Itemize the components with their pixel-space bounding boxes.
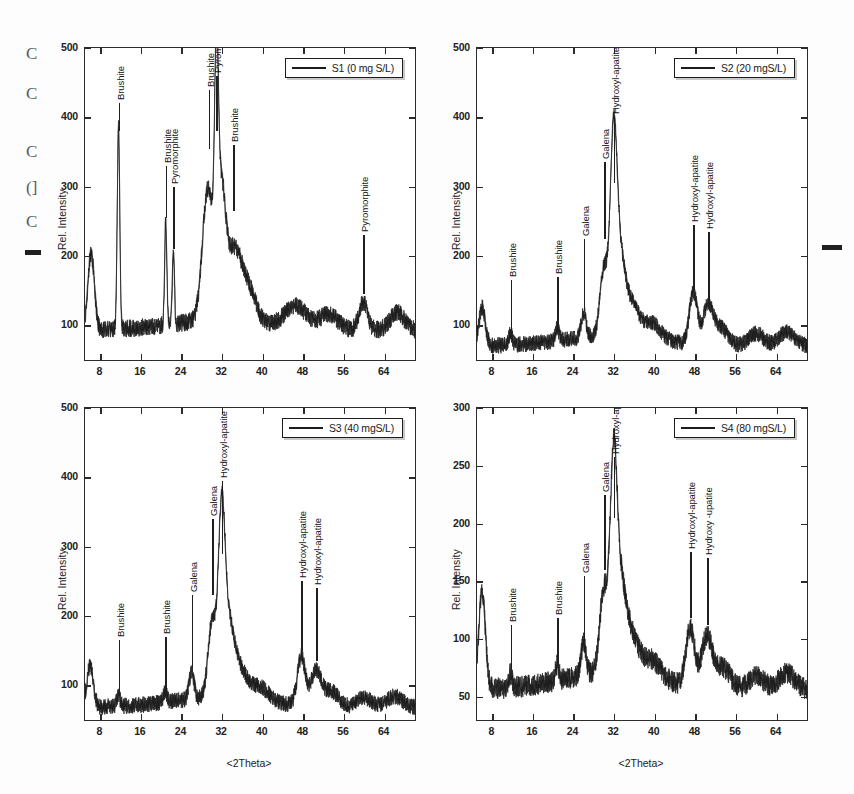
x-axis-tick <box>655 714 656 720</box>
x-tick-label: 16 <box>526 725 537 737</box>
peak-leader-line <box>511 625 513 670</box>
peak-label: Brushite <box>553 581 564 615</box>
y-axis-tick <box>477 639 483 640</box>
peak-leader-line <box>604 495 606 570</box>
x-axis-tick <box>533 408 534 414</box>
y-tick-label: 200 <box>440 517 470 529</box>
peak-label: Hydroxyl-apatite <box>610 407 621 454</box>
x-tick-label: 24 <box>567 725 578 737</box>
legend: S4 (80 mgS/L) <box>674 418 795 438</box>
x-axis-tick <box>695 408 696 414</box>
plot-area: BrushiteBrushiteGalenaGalenaHydroxyl-apa… <box>476 407 808 721</box>
x-axis-tick <box>655 408 656 414</box>
y-axis-tick <box>477 408 483 409</box>
y-axis-tick <box>801 581 807 582</box>
peak-leader-line <box>614 457 616 518</box>
x-axis-tick <box>492 408 493 414</box>
peak-leader-line <box>707 558 709 625</box>
x-tick-label: 48 <box>689 725 700 737</box>
x-tick-label: 64 <box>770 725 781 737</box>
legend-line-swatch <box>681 427 715 429</box>
x-axis-tick <box>736 408 737 414</box>
x-tick-label: 32 <box>607 725 618 737</box>
y-axis-tick <box>801 639 807 640</box>
peak-label: Hydroxy -upatite <box>703 488 714 556</box>
y-axis-tick <box>801 524 807 525</box>
y-tick-label: 50 <box>440 690 470 702</box>
y-axis-tick <box>477 524 483 525</box>
x-tick-label: 40 <box>648 725 659 737</box>
x-axis-tick <box>777 408 778 414</box>
panel-4: BrushiteBrushiteGalenaGalenaHydroxyl-apa… <box>0 0 854 794</box>
peak-leader-line <box>690 552 692 618</box>
y-tick-label: 300 <box>440 401 470 413</box>
peak-label: Galena <box>580 543 591 573</box>
peak-label: Hydroxyl-apatite <box>686 482 697 549</box>
y-axis-tick <box>801 466 807 467</box>
y-axis-tick <box>801 697 807 698</box>
x-axis-label: <2Theta> <box>619 757 664 769</box>
y-axis-tick <box>477 697 483 698</box>
xrd-figure: C C C (] C BrushiteBrushitePyromorphiteB… <box>0 0 854 794</box>
x-axis-tick <box>614 714 615 720</box>
peak-leader-line <box>584 576 586 645</box>
xrd-trace <box>477 408 807 720</box>
y-axis-tick <box>477 466 483 467</box>
peak-label: Brushite <box>507 588 518 622</box>
legend-label: S4 (80 mgS/L) <box>721 422 786 434</box>
y-axis-label: Rel. Intensity <box>450 549 462 610</box>
peak-label: Galena <box>600 462 611 492</box>
x-tick-label: 8 <box>488 725 494 737</box>
x-axis-tick <box>695 714 696 720</box>
x-axis-tick <box>777 714 778 720</box>
y-axis-tick <box>477 581 483 582</box>
x-axis-tick <box>533 714 534 720</box>
y-tick-label: 250 <box>440 459 470 471</box>
x-axis-tick <box>492 714 493 720</box>
y-axis-tick <box>801 408 807 409</box>
x-axis-tick <box>573 714 574 720</box>
y-tick-label: 100 <box>440 632 470 644</box>
x-tick-label: 56 <box>729 725 740 737</box>
x-axis-tick <box>573 408 574 414</box>
x-axis-tick <box>736 714 737 720</box>
peak-leader-line <box>557 618 559 664</box>
